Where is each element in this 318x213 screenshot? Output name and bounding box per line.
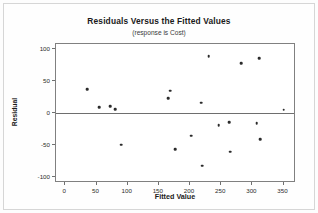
x-tick-label: 100: [122, 187, 132, 194]
data-point: [217, 124, 220, 127]
x-tick-label: 0: [63, 187, 66, 194]
x-tick-label: 50: [92, 187, 99, 194]
data-point: [120, 143, 123, 146]
plot-area: [55, 43, 295, 182]
x-tick-label: 250: [215, 187, 225, 194]
x-tick-mark: [64, 182, 65, 185]
data-point: [258, 57, 261, 60]
x-tick-label: 150: [153, 187, 163, 194]
data-point: [207, 55, 210, 58]
data-point: [229, 150, 232, 153]
data-point: [201, 164, 204, 167]
chart-figure: Residuals Versus the Fitted Values (resp…: [0, 0, 318, 213]
data-point: [109, 105, 112, 108]
data-point: [259, 138, 262, 141]
data-point: [190, 135, 193, 138]
data-point: [98, 106, 101, 109]
data-point: [167, 97, 170, 100]
data-point: [114, 108, 117, 111]
x-tick-mark: [189, 182, 190, 185]
data-point: [86, 88, 89, 91]
data-point: [255, 122, 258, 125]
x-tick-label: 300: [246, 187, 256, 194]
x-tick-mark: [158, 182, 159, 185]
x-tick-label: 350: [277, 187, 287, 194]
data-point: [174, 148, 177, 151]
data-point: [228, 121, 231, 124]
zero-reference-line: [56, 113, 294, 114]
data-point: [200, 101, 203, 104]
x-tick-mark: [220, 182, 221, 185]
x-tick-label: 200: [184, 187, 194, 194]
data-point: [169, 89, 172, 92]
x-tick-mark: [283, 182, 284, 185]
x-tick-mark: [127, 182, 128, 185]
data-point: [282, 108, 285, 111]
data-point: [240, 62, 243, 65]
x-tick-mark: [96, 182, 97, 185]
x-tick-mark: [251, 182, 252, 185]
